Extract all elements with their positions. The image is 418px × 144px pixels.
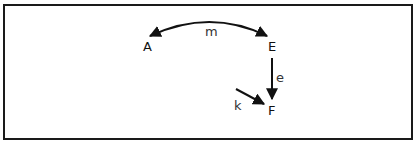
edge-k-label: k [234, 98, 242, 113]
edge-m: m [150, 22, 267, 39]
node-f: F [268, 103, 275, 118]
edge-m-label: m [205, 24, 218, 39]
edge-e: e [272, 58, 284, 99]
node-a: A [143, 39, 152, 54]
diagram-canvas: m e k A E F [0, 0, 418, 144]
edge-e-label: e [276, 70, 284, 85]
edge-k: k [234, 89, 264, 113]
node-e: E [268, 39, 276, 54]
